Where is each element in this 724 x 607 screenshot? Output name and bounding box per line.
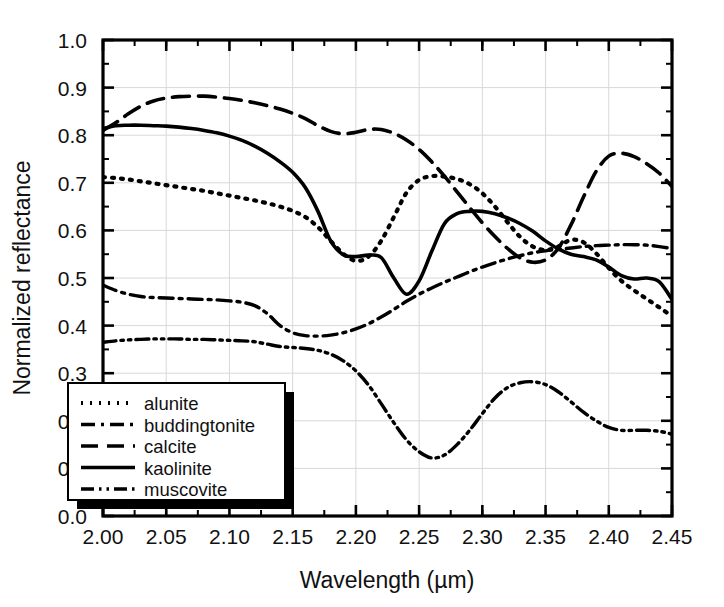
y-tick-label: 0.3 bbox=[58, 362, 87, 385]
x-tick-label: 2.25 bbox=[399, 525, 440, 548]
x-axis-title: Wavelength (µm) bbox=[300, 567, 475, 593]
legend-label-muscovite: muscovite bbox=[144, 479, 227, 500]
x-tick-label: 2.35 bbox=[525, 525, 566, 548]
chart-canvas: 2.002.052.102.152.202.252.302.352.402.45… bbox=[0, 0, 724, 607]
legend-label-alunite: alunite bbox=[144, 393, 199, 414]
y-axis-title: Normalized reflectance bbox=[9, 160, 35, 395]
x-tick-label: 2.15 bbox=[272, 525, 313, 548]
y-tick-label: 0.4 bbox=[58, 315, 88, 338]
chart-legend: alunitebuddingtonitecalcitekaolinitemusc… bbox=[68, 383, 294, 509]
spectral-reflectance-figure: 2.002.052.102.152.202.252.302.352.402.45… bbox=[0, 0, 724, 607]
y-tick-label: 0.9 bbox=[58, 77, 87, 100]
x-tick-label: 2.00 bbox=[83, 525, 124, 548]
y-tick-label: 0.6 bbox=[58, 219, 87, 242]
y-tick-label: 0.5 bbox=[58, 267, 87, 290]
y-tick-label: 1.0 bbox=[58, 29, 87, 52]
legend-label-buddingtonite: buddingtonite bbox=[144, 415, 255, 436]
x-tick-label: 2.05 bbox=[146, 525, 187, 548]
x-tick-label: 2.45 bbox=[652, 525, 693, 548]
x-tick-label: 2.10 bbox=[209, 525, 250, 548]
x-tick-label: 2.20 bbox=[335, 525, 376, 548]
legend-label-kaolinite: kaolinite bbox=[144, 458, 212, 479]
x-tick-label: 2.40 bbox=[588, 525, 629, 548]
legend-label-calcite: calcite bbox=[144, 436, 196, 457]
y-tick-label: 0.8 bbox=[58, 124, 87, 147]
y-tick-label: 0.7 bbox=[58, 172, 87, 195]
x-tick-label: 2.30 bbox=[462, 525, 503, 548]
